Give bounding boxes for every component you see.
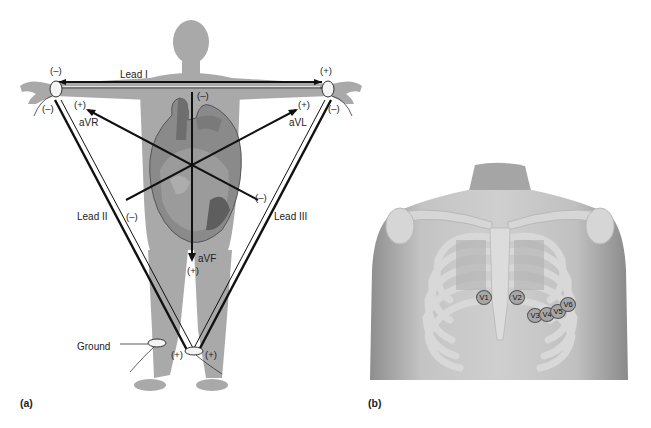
avr-positive-sign: (+) <box>74 100 86 110</box>
ll-left-positive-sign: (+) <box>171 350 183 360</box>
chest-electrode-v2: V2 <box>509 290 525 305</box>
avf-positive-sign: (+) <box>187 266 199 276</box>
augmented-lead-lines <box>88 92 296 258</box>
lead-iii-negative-sign: (–) <box>255 193 267 203</box>
chest-anatomy-diagram <box>360 0 651 428</box>
ra-negative-sign: (–) <box>50 66 62 76</box>
la-lower-negative-sign: (–) <box>328 104 340 114</box>
avl-label: aVL <box>289 118 307 128</box>
lead-ii-negative-sign: (–) <box>126 212 138 222</box>
lead-iii-label: Lead III <box>274 212 307 222</box>
chest-electrode-v1: V1 <box>476 290 492 305</box>
avf-negative-sign: (–) <box>197 91 209 101</box>
lead-i-label: Lead I <box>120 70 148 80</box>
chest-electrode-v6: V6 <box>560 297 576 312</box>
ll-right-positive-sign: (+) <box>205 350 217 360</box>
panel-a-limb-leads: Lead I aVR aVL Lead II Lead III aVF Grou… <box>0 0 400 428</box>
avf-label: aVF <box>198 254 216 264</box>
avl-positive-sign: (+) <box>298 100 310 110</box>
ra-lower-negative-sign: (–) <box>42 104 54 114</box>
avr-label: aVR <box>79 118 98 128</box>
ground-label: Ground <box>77 342 110 352</box>
panel-b-chest-leads: V1 V2 V3 V4 V5 V6 (b) <box>360 0 651 428</box>
panel-b-letter: (b) <box>368 397 381 409</box>
panel-a-letter: (a) <box>20 397 33 409</box>
lead-ii-label: Lead II <box>77 212 108 222</box>
la-positive-sign: (+) <box>320 66 332 76</box>
